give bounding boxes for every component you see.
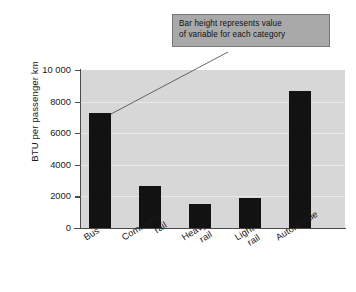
tick-mark-2000 [75, 196, 81, 197]
bar-bus [89, 113, 111, 228]
tick-mark-6000 [75, 133, 81, 134]
tick-mark-0 [75, 228, 81, 229]
callout-annotation: Bar height represents value of variable … [172, 14, 330, 47]
tick-mark-10000 [75, 70, 81, 71]
tick-mark-4000 [75, 165, 81, 166]
y-tick-label-10000: 10 000 [1, 64, 71, 75]
tick-mark-8000 [75, 102, 81, 103]
y-tick-label-0: 0 [1, 222, 71, 233]
y-axis-line [80, 69, 81, 229]
y-tick-label-8000: 8000 [1, 96, 71, 107]
callout-line-2: of variable for each category [179, 29, 324, 40]
bar-chart-figure: BTU per passenger km 10 000 8000 6000 40… [0, 0, 356, 292]
y-tick-label-2000: 2000 [1, 190, 71, 201]
y-tick-label-4000: 4000 [1, 159, 71, 170]
x-axis-line [74, 228, 346, 229]
bar-automobile [289, 91, 311, 228]
callout-line-1: Bar height represents value [179, 18, 324, 29]
y-tick-label-6000: 6000 [1, 127, 71, 138]
